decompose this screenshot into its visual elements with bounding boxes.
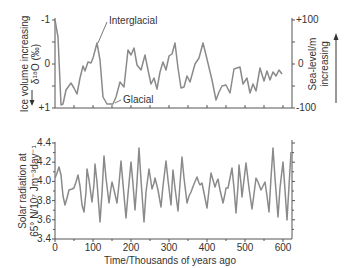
- lower-x-tick-label: 500: [237, 242, 254, 253]
- upper-left-tick-label: -1: [41, 14, 50, 25]
- lower-x-tick-label: 600: [275, 242, 292, 253]
- upper-right-tick-label: 0: [298, 58, 304, 69]
- sea-level-arrow-icon: [334, 33, 339, 103]
- lower-x-tick-label: 0: [52, 242, 58, 253]
- lower-x-tick-label: 100: [85, 242, 102, 253]
- upper-right-tick-label: -100: [296, 102, 316, 113]
- lower-x-tick-label: 200: [123, 242, 140, 253]
- lower-y-axis-label-1: Solar radiation at: [17, 153, 28, 229]
- lower-chart: 4.4 4.2 4.0 3.8 3.6 3.4: [17, 137, 295, 266]
- upper-right-axis-label-1: Sea-level/m: [307, 38, 318, 91]
- figure: -1 0 +1 +100 0 -100 Ice volum: [0, 0, 346, 268]
- upper-left-tick-label: 0: [44, 58, 50, 69]
- annotation-glacial: Glacial: [123, 94, 154, 105]
- lower-y-axis-label-2: 65° N/10⁷ Jm⁻³day⁻¹: [29, 145, 40, 237]
- upper-left-axis-label-1: Ice volume increasing: [19, 16, 30, 113]
- lower-x-tick-label: 300: [161, 242, 178, 253]
- ice-volume-arrow-icon: [30, 90, 35, 106]
- upper-curve: [55, 20, 282, 105]
- glacial-pointer: [115, 100, 121, 103]
- lower-x-tick-label: 400: [199, 242, 216, 253]
- upper-right-tick-label: +100: [296, 14, 319, 25]
- lower-curve: [55, 148, 291, 222]
- upper-left-tick-label: +1: [39, 102, 51, 113]
- annotation-interglacial: Interglacial: [109, 15, 157, 26]
- lower-x-axis-label: Time/Thousands of years ago: [104, 255, 236, 266]
- upper-right-axis-label-2: increasing: [319, 41, 330, 87]
- interglacial-pointer: [98, 22, 107, 43]
- upper-chart: -1 0 +1 +100 0 -100 Ice volum: [19, 14, 339, 113]
- upper-left-axis-label-2: δ¹⁸O (‰): [30, 44, 41, 84]
